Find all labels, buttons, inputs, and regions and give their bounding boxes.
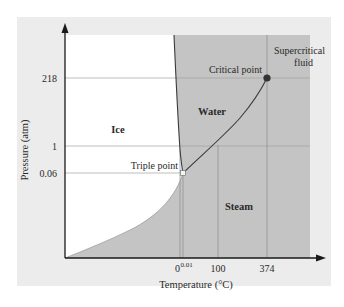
x-axis-title: Temperature (°C) xyxy=(159,279,233,291)
xtick-374: 374 xyxy=(260,263,275,274)
ytick-218: 218 xyxy=(42,73,57,84)
critical-point-label: Critical point xyxy=(209,64,262,75)
supercritical-label-line1: Supercritical xyxy=(274,45,325,56)
triple-point-marker xyxy=(181,171,186,176)
critical-point-marker xyxy=(263,74,270,81)
triple-point-label: Triple point xyxy=(131,160,178,171)
supercritical-label-line2: fluid xyxy=(294,57,313,68)
ytick-1: 1 xyxy=(52,141,57,152)
ytick-006: 0.06 xyxy=(40,168,58,179)
y-axis-title: Pressure (atm) xyxy=(19,119,31,180)
xtick-001: 0.01 xyxy=(181,261,194,269)
xtick-100: 100 xyxy=(211,263,226,274)
phase-diagram-chart: 218 1 0.06 0 0.01 100 374 Temperature (°… xyxy=(0,0,344,307)
xtick-0: 0 xyxy=(175,263,180,274)
region-label-water: Water xyxy=(198,106,226,117)
region-label-steam: Steam xyxy=(225,201,253,212)
region-label-ice: Ice xyxy=(111,124,125,135)
